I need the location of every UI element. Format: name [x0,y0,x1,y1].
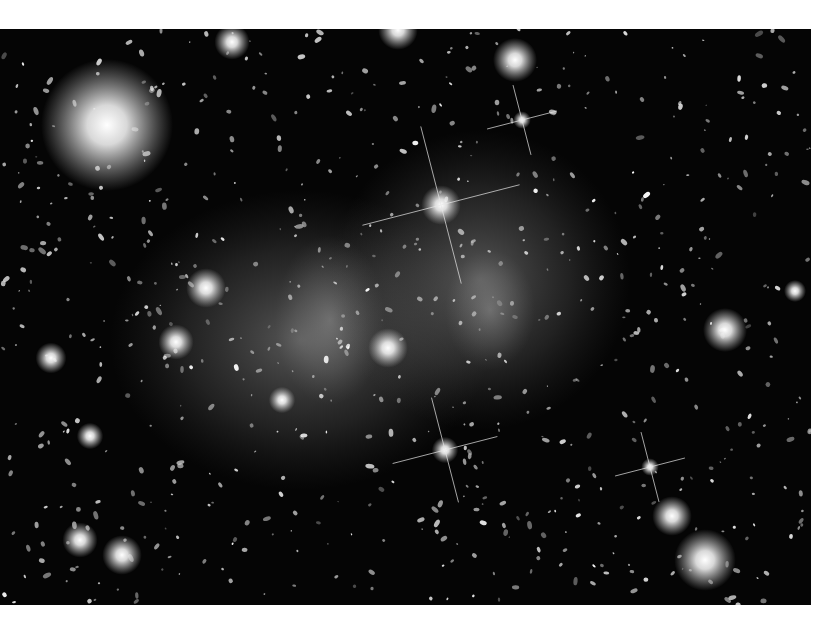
star-field [0,29,811,605]
galaxy-cluster-photo [0,29,811,605]
